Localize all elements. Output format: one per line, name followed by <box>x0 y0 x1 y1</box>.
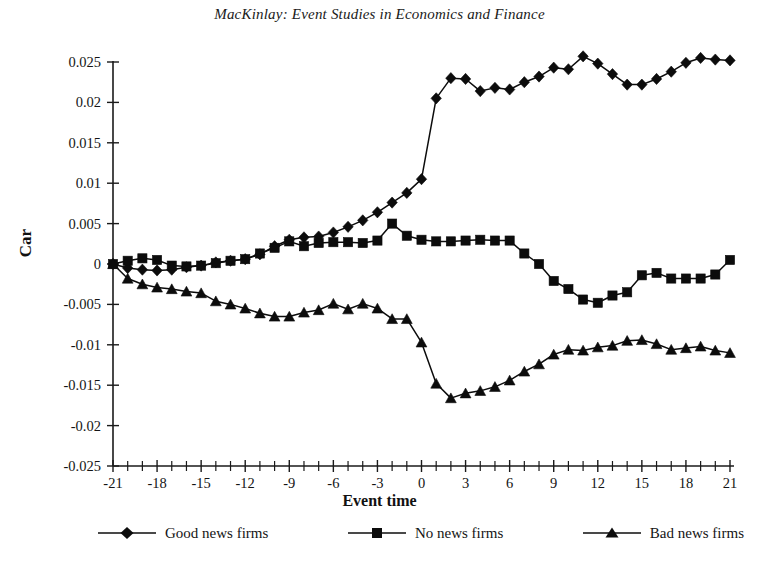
data-point <box>313 305 324 315</box>
data-point <box>446 237 455 246</box>
data-point <box>520 249 529 258</box>
data-point <box>328 227 338 238</box>
x-axis: -21-18-15-12-9-6-3036912151821 <box>103 460 737 491</box>
legend-label-bad-news: Bad news firms <box>650 525 744 542</box>
data-point <box>607 69 617 80</box>
data-series-group <box>108 51 736 403</box>
y-tick-label: 0.015 <box>68 135 101 151</box>
data-point <box>255 308 266 318</box>
data-point <box>123 256 132 265</box>
data-point <box>343 221 353 232</box>
data-point <box>197 261 206 270</box>
data-point <box>476 235 485 244</box>
data-point <box>666 66 676 77</box>
x-tick-label: 21 <box>723 475 738 491</box>
legend-label-good-news: Good news firms <box>165 525 268 542</box>
data-series <box>108 259 736 403</box>
data-point <box>358 238 367 247</box>
data-point <box>343 238 352 247</box>
data-point <box>667 274 676 283</box>
data-point <box>328 298 339 308</box>
data-point <box>387 197 397 208</box>
data-point <box>534 259 543 268</box>
data-point <box>593 58 603 69</box>
data-point <box>622 79 632 90</box>
data-point <box>725 255 734 264</box>
data-point <box>593 298 602 307</box>
x-tick-label: 18 <box>679 475 694 491</box>
y-tick-label: 0.005 <box>68 216 101 232</box>
data-point <box>461 236 470 245</box>
x-tick-label: -15 <box>191 475 210 491</box>
data-point <box>505 236 514 245</box>
data-point <box>210 296 221 306</box>
legend-item-good-news[interactable]: Good news firms <box>96 525 268 542</box>
data-point <box>637 79 647 90</box>
x-tick-label: -6 <box>327 475 339 491</box>
data-point <box>388 219 397 228</box>
data-point <box>651 73 661 84</box>
y-tick-label: 0 <box>94 256 101 272</box>
legend-label-no-news: No news firms <box>415 525 503 542</box>
x-tick-label: 12 <box>591 475 606 491</box>
data-point <box>299 232 309 243</box>
data-point <box>357 298 368 308</box>
data-point <box>343 304 354 314</box>
data-point <box>182 262 191 271</box>
data-point <box>504 375 515 385</box>
data-point <box>416 337 427 347</box>
data-point <box>534 71 544 82</box>
data-point <box>285 237 294 246</box>
data-point <box>681 57 691 68</box>
data-point <box>137 279 148 289</box>
data-point <box>314 238 323 247</box>
data-point <box>167 261 176 270</box>
plot-area: 0.0250.020.0150.010.0050-0.005-0.01-0.01… <box>0 0 759 520</box>
y-tick-label: -0.02 <box>71 418 101 434</box>
square-marker-icon <box>346 526 408 540</box>
data-point <box>431 378 442 388</box>
data-point <box>138 254 147 263</box>
data-point <box>373 236 382 245</box>
data-point <box>372 207 382 218</box>
y-tick-label: 0.025 <box>68 54 101 70</box>
data-point <box>681 274 690 283</box>
y-tick-label: 0.01 <box>76 175 101 191</box>
data-point <box>490 382 501 392</box>
y-tick-label: -0.015 <box>64 377 101 393</box>
data-point <box>490 236 499 245</box>
x-tick-label: 9 <box>550 475 557 491</box>
data-point <box>652 268 661 277</box>
chart-legend: Good news firms No news firms Bad news f… <box>96 519 744 547</box>
data-point <box>270 243 279 252</box>
diamond-marker-icon <box>96 526 158 540</box>
y-tick-label: -0.01 <box>71 337 101 353</box>
data-point <box>299 242 308 251</box>
data-point <box>402 231 411 240</box>
data-point <box>329 238 338 247</box>
data-point <box>564 284 573 293</box>
data-point <box>695 52 705 63</box>
x-tick-label: 0 <box>418 475 425 491</box>
legend-item-no-news[interactable]: No news firms <box>346 525 503 542</box>
data-point <box>490 82 500 93</box>
data-point <box>519 366 530 376</box>
chart-figure: MacKinlay: Event Studies in Economics an… <box>0 0 759 561</box>
x-tick-label: -12 <box>236 475 255 491</box>
data-point <box>226 256 235 265</box>
data-point <box>548 349 559 359</box>
data-point <box>637 271 646 280</box>
legend-item-bad-news[interactable]: Bad news firms <box>581 525 744 542</box>
data-point <box>711 270 720 279</box>
data-point <box>432 237 441 246</box>
triangle-marker-icon <box>581 526 643 540</box>
data-point <box>358 215 368 226</box>
data-point <box>710 54 720 65</box>
data-point <box>504 84 514 95</box>
x-tick-label: 6 <box>506 475 513 491</box>
data-point <box>578 295 587 304</box>
data-point <box>372 303 383 313</box>
x-tick-label: -18 <box>147 475 166 491</box>
data-point <box>152 265 162 276</box>
data-point <box>152 255 161 264</box>
